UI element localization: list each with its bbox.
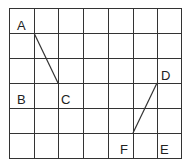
label-f: F (120, 142, 128, 157)
grid-diagram: A B C D E F (0, 0, 190, 164)
label-c: C (61, 92, 70, 107)
grid-lines (9, 8, 182, 159)
label-d: D (161, 68, 170, 83)
label-b: B (17, 92, 26, 107)
label-a: A (17, 18, 26, 33)
label-e: E (160, 142, 169, 157)
